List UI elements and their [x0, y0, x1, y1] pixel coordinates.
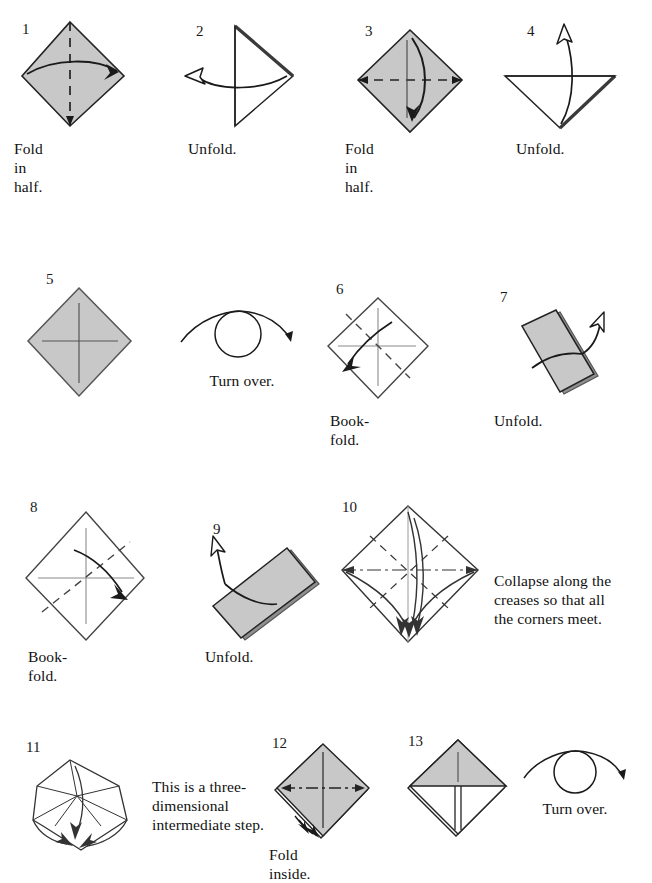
turn-over-icon [175, 298, 305, 368]
step-caption: Unfold. [494, 412, 543, 431]
step-caption: Fold in half. [14, 140, 43, 197]
figure-white-diamond-book-fold [320, 288, 445, 408]
step-caption: Unfold. [188, 140, 237, 159]
step-caption: Book-fold. [28, 648, 67, 686]
figure-shaded-diamond-vertical-crease [14, 14, 134, 132]
figure-shaded-layered-diamond [265, 742, 385, 852]
figure-tilted-shaded-rectangle-alt [195, 528, 330, 643]
turn-over-label: Turn over. [510, 800, 640, 819]
figure-shaded-diamond-cross-creases [20, 278, 160, 413]
step-caption: Unfold. [516, 140, 565, 159]
figure-three-dimensional-step [15, 748, 155, 868]
turn-over-icon [520, 740, 640, 808]
step-caption: Unfold. [205, 648, 254, 667]
figure-shaded-diamond-horizontal-crease [350, 14, 480, 132]
figure-tilted-shaded-rectangle [490, 300, 620, 410]
step-caption: Fold in half. [345, 140, 374, 197]
step-caption: Book-fold. [330, 412, 369, 450]
turn-over-label: Turn over. [178, 372, 306, 391]
step-caption: Collapse along the creases so that all t… [494, 572, 644, 629]
figure-shaded-diamond-center-flap [400, 738, 520, 848]
step-caption: Fold inside. [269, 846, 311, 883]
figure-white-triangle-right [175, 14, 305, 132]
figure-white-diamond-book-fold-alt [18, 500, 158, 645]
figure-white-triangle-down [490, 14, 630, 132]
figure-white-diamond-crease-pattern [330, 498, 490, 653]
